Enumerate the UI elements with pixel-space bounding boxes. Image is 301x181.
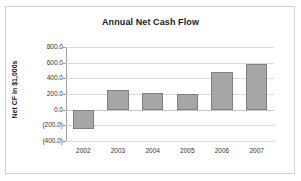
gridline — [66, 47, 274, 48]
bar-2002 — [73, 110, 94, 130]
plot-area — [66, 47, 274, 141]
bar-2004 — [142, 93, 163, 110]
bar-2005 — [177, 94, 198, 110]
y-tick-mark — [63, 110, 66, 111]
x-tick-label-2003: 2003 — [101, 147, 136, 154]
y-tick-mark — [63, 63, 66, 64]
y-tick-mark — [63, 78, 66, 79]
gridline — [66, 94, 274, 95]
chart-figure: Annual Net Cash Flow Net CF in $1,000s 8… — [0, 0, 301, 181]
bar-2006 — [211, 72, 232, 109]
gridline — [66, 63, 274, 64]
x-tick-label-2006: 2006 — [205, 147, 240, 154]
y-tick-label: 600.0 — [3, 59, 63, 66]
x-tick-label-2002: 2002 — [66, 147, 101, 154]
bar-2007 — [246, 64, 267, 109]
gridline — [66, 78, 274, 79]
y-tick-label: 0.0 — [3, 106, 63, 113]
zero-line — [66, 110, 274, 111]
y-tick-label: 400.0 — [3, 74, 63, 81]
y-tick-mark — [63, 141, 66, 142]
x-tick-label-2004: 2004 — [135, 147, 170, 154]
y-tick-label: 800.0 — [3, 43, 63, 50]
y-tick-mark — [63, 47, 66, 48]
bar-2003 — [107, 90, 128, 110]
x-tick-label-2005: 2005 — [170, 147, 205, 154]
y-tick-mark — [63, 94, 66, 95]
gridline — [66, 125, 274, 126]
gridline — [66, 141, 274, 142]
y-tick-label: (400.0) — [3, 137, 63, 144]
chart-title: Annual Net Cash Flow — [0, 17, 301, 27]
y-tick-label: 200.0 — [3, 90, 63, 97]
y-tick-mark — [63, 125, 66, 126]
y-tick-label: (200.0) — [3, 121, 63, 128]
x-tick-label-2007: 2007 — [239, 147, 274, 154]
